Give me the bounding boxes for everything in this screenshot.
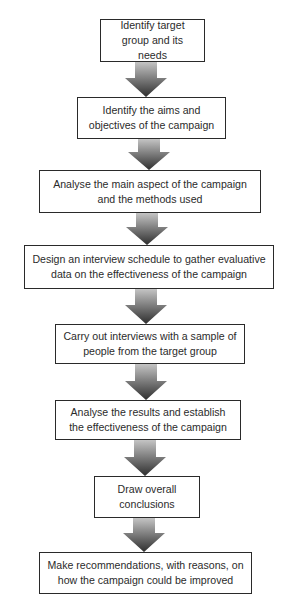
step-label: Identify the aims and objectives of the … — [84, 103, 219, 133]
step-8-make-recommendations: Make recommendations, with reasons, on h… — [39, 552, 252, 594]
arrow-5-to-6 — [125, 364, 167, 400]
step-label: Carry out interviews with a sample of pe… — [62, 329, 238, 359]
arrow-1-to-2 — [125, 62, 167, 97]
step-label: Draw overall conclusions — [109, 482, 185, 512]
step-7-draw-conclusions: Draw overall conclusions — [94, 476, 200, 518]
step-label: Make recommendations, with reasons, on h… — [46, 558, 245, 588]
step-1-identify-target-group: Identify target group and its needs — [100, 19, 205, 62]
step-label: Identify target group and its needs — [107, 18, 198, 63]
arrow-7-to-8 — [123, 518, 165, 552]
arrow-4-to-5 — [125, 289, 167, 324]
step-4-design-interview-schedule: Design an interview schedule to gather e… — [24, 245, 274, 289]
step-label: Analyse the results and establish the ef… — [62, 405, 234, 435]
step-5-carry-out-interviews: Carry out interviews with a sample of pe… — [55, 324, 245, 364]
step-2-identify-aims: Identify the aims and objectives of the … — [77, 97, 226, 139]
step-label: Design an interview schedule to gather e… — [31, 252, 267, 282]
step-6-analyse-results: Analyse the results and establish the ef… — [55, 400, 241, 440]
step-label: Analyse the main aspect of the campaign … — [46, 177, 254, 207]
step-3-analyse-main-aspect: Analyse the main aspect of the campaign … — [39, 170, 261, 213]
arrow-2-to-3 — [128, 139, 170, 170]
arrow-6-to-7 — [124, 440, 166, 476]
arrow-3-to-4 — [126, 213, 168, 245]
